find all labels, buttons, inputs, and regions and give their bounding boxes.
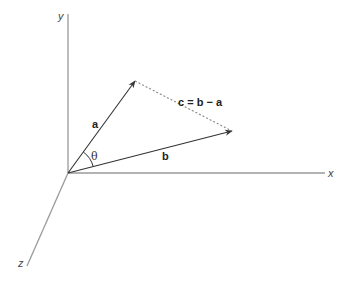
z-axis <box>27 173 68 266</box>
vector-a-arrow <box>68 81 135 173</box>
vector-b-label: b <box>162 150 169 162</box>
theta-label: θ <box>91 150 98 163</box>
y-axis-label: y <box>57 10 65 22</box>
x-axis-label: x <box>327 167 334 179</box>
vector-c-equation-label: c = b − a <box>178 96 223 108</box>
vector-a-label: a <box>92 118 99 130</box>
vector-diagram: y x z a b c = b − a θ <box>0 0 350 282</box>
z-axis-label: z <box>17 257 24 269</box>
